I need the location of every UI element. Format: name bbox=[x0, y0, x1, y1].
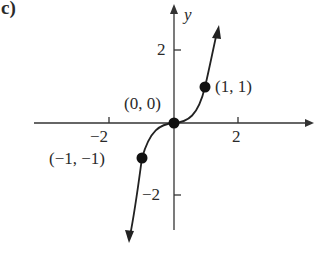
y-tick-label-neg2: −2 bbox=[142, 186, 160, 203]
y-axis-arrow-icon bbox=[170, 4, 178, 14]
y-axis-label: y bbox=[184, 6, 192, 23]
x-tick-label-2: 2 bbox=[232, 128, 241, 145]
point-origin bbox=[169, 118, 180, 129]
x-axis-arrow-icon bbox=[305, 119, 314, 127]
point-label-origin: (0, 0) bbox=[124, 95, 161, 112]
curve-top-arrow-icon bbox=[212, 25, 221, 39]
point-label-neg-one: (−1, −1) bbox=[49, 150, 105, 167]
point-neg-one-neg-one bbox=[137, 153, 148, 164]
curve-bottom-arrow-icon bbox=[125, 230, 134, 243]
point-one-one bbox=[200, 82, 211, 93]
x-tick-label-neg2: −2 bbox=[90, 128, 108, 145]
cubic-graph bbox=[0, 0, 315, 255]
y-tick-label-2: 2 bbox=[157, 41, 166, 58]
point-label-one-one: (1, 1) bbox=[215, 78, 252, 95]
